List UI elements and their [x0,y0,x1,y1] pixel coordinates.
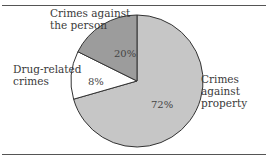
pct-person: 20% [114,48,136,59]
label-drug: Drug-related crimes [13,63,81,87]
label-person: Crimes against the person [50,7,130,31]
pct-drug: 8% [88,76,104,87]
pct-property: 72% [151,99,173,110]
label-property: Crimes against property [201,73,274,109]
